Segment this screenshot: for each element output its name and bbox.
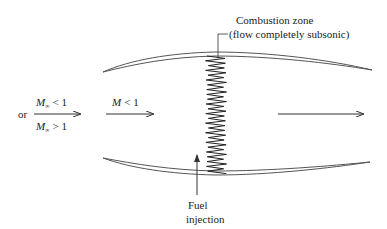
supersonic-freestream-label: M∞> 1 [35,120,67,133]
fuel-label: Fuel [188,199,208,211]
combustion-zone-flame [206,56,227,174]
ramjet-diagram: or M∞< 1 M∞> 1 M< 1 Combustion zone (flo… [0,0,387,229]
or-label: or [18,108,28,120]
injection-label: injection [186,213,225,225]
internal-mach-label: M< 1 [111,96,139,108]
combustion-zone-leader [218,34,228,58]
upper-nacelle-wall [103,52,372,72]
subsonic-freestream-label: M∞< 1 [35,96,67,109]
lower-nacelle-wall [103,158,370,175]
combustion-zone-title: Combustion zone [236,14,313,26]
combustion-zone-subtitle: (flow completely subsonic) [229,28,350,41]
